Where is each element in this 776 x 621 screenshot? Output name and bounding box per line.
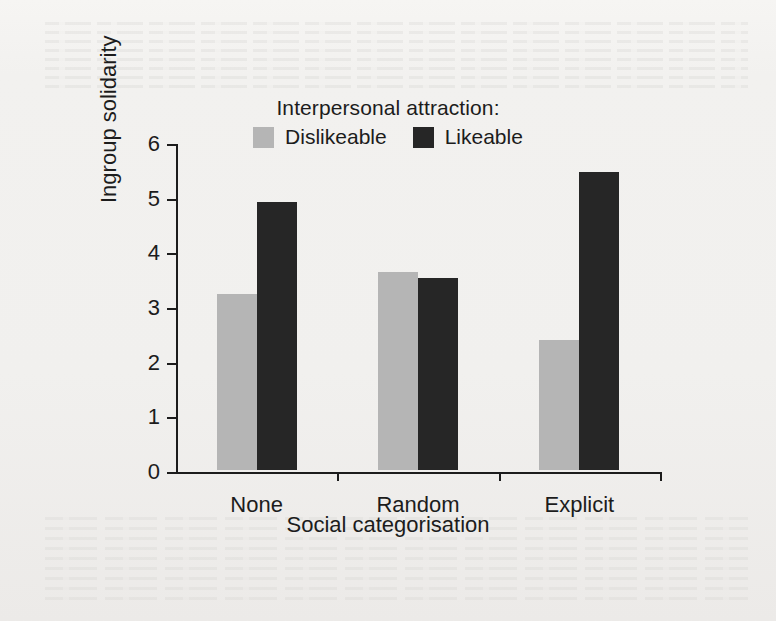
y-axis-line bbox=[176, 144, 178, 474]
y-tick-label: 6 bbox=[148, 133, 160, 155]
y-tick-label: 4 bbox=[148, 242, 160, 264]
y-tick bbox=[167, 363, 176, 365]
x-tick bbox=[337, 472, 339, 481]
y-tick-label: 0 bbox=[148, 461, 160, 483]
y-tick-label: 5 bbox=[148, 188, 160, 210]
plot-area: 0123456 NoneRandomExplicit bbox=[176, 144, 660, 472]
bar-explicit-dislikeable bbox=[539, 340, 579, 470]
y-tick-label: 2 bbox=[148, 352, 160, 374]
y-tick bbox=[167, 144, 176, 146]
bar-none-likeable bbox=[257, 202, 297, 470]
x-tick bbox=[499, 472, 501, 481]
y-tick-label: 1 bbox=[148, 406, 160, 428]
x-tick bbox=[660, 472, 662, 481]
x-axis-title: Social categorisation bbox=[0, 512, 776, 538]
y-tick bbox=[167, 253, 176, 255]
y-tick bbox=[167, 417, 176, 419]
bar-random-likeable bbox=[418, 278, 458, 470]
y-tick-label: 3 bbox=[148, 297, 160, 319]
y-tick bbox=[167, 472, 176, 474]
bar-none-dislikeable bbox=[217, 294, 257, 470]
y-tick bbox=[167, 308, 176, 310]
bar-random-dislikeable bbox=[378, 272, 418, 470]
y-axis-title: Ingroup solidarity bbox=[96, 0, 122, 203]
y-tick bbox=[167, 199, 176, 201]
x-axis-line bbox=[176, 472, 662, 474]
bar-chart-figure: Interpersonal attraction: Dislikeable Li… bbox=[0, 0, 776, 621]
bar-explicit-likeable bbox=[579, 172, 619, 470]
